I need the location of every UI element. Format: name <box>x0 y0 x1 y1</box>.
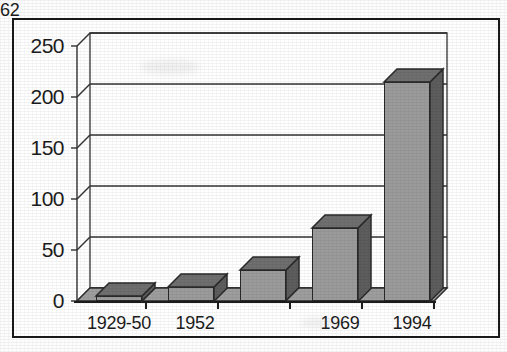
y-tick-label-50: 50 <box>8 238 64 262</box>
x-axis <box>74 302 436 309</box>
bar-front-face <box>240 270 286 301</box>
x-category-label-1969: 1969 <box>321 313 360 334</box>
chart-image: 250 200 150 100 50 0 1929-50 1952 1962 1… <box>0 0 507 352</box>
x-category-label-1952: 1952 <box>176 313 215 334</box>
bar-front-face <box>312 228 358 301</box>
x-category-label-1929-50: 1929-50 <box>87 313 151 334</box>
y-tick-label-100: 100 <box>8 187 64 211</box>
bar-front-face <box>384 82 430 301</box>
y-tick-label-150: 150 <box>8 136 64 160</box>
bar-front-face <box>168 287 214 301</box>
x-category-label-1994: 1994 <box>393 313 432 334</box>
y-tick-label-0: 0 <box>8 289 64 313</box>
y-axis <box>71 33 90 301</box>
x-category-label-1962: 1962 <box>0 0 19 21</box>
y-tick-label-200: 200 <box>8 85 64 109</box>
y-tick-label-250: 250 <box>8 34 64 58</box>
bar-front-face <box>96 296 142 301</box>
